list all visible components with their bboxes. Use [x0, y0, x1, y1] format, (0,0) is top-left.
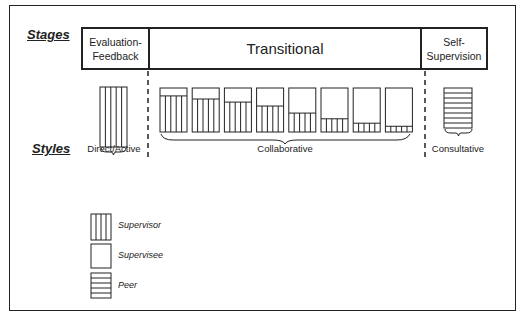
collaborative-bar [353, 88, 380, 132]
consultative-bar [444, 88, 472, 128]
direct-active-bar [100, 87, 127, 147]
legend-swatch-peer [91, 273, 111, 298]
legend-label-supervisee: Supervisee [118, 250, 163, 260]
collaborative-bars [160, 88, 412, 132]
collaborative-bar [321, 88, 348, 132]
stage-evaluation-feedback-line1: Evaluation- [89, 35, 142, 49]
style-label-direct-active: Direct/Active [84, 143, 144, 154]
stage-transitional: Transitional [148, 27, 422, 70]
stages-row-label: Stages [27, 27, 70, 42]
style-label-collaborative: Collaborative [255, 143, 315, 154]
collaborative-bar [289, 88, 316, 132]
collaborative-bar [160, 88, 187, 132]
stage-transitional-label: Transitional [247, 42, 324, 56]
legend-swatch-supervisor [91, 214, 111, 240]
collaborative-bar [224, 88, 251, 132]
styles-row-label: Styles [32, 141, 70, 156]
collaborative-bar [385, 88, 412, 132]
style-label-consultative: Consultative [428, 143, 488, 154]
legend-label-peer: Peer [118, 280, 137, 290]
legend-swatch-supervisee [91, 244, 111, 268]
stage-evaluation-feedback-line2: Feedback [89, 49, 142, 63]
legend-label-supervisor: Supervisor [118, 220, 161, 230]
stage-self-supervision: Self- Supervision [420, 27, 488, 70]
consultative-brace [445, 129, 472, 136]
stage-self-supervision-line2: Supervision [427, 49, 482, 63]
stage-evaluation-feedback: Evaluation- Feedback [81, 27, 150, 70]
collaborative-bar [192, 88, 219, 132]
stage-self-supervision-line1: Self- [427, 35, 482, 49]
collaborative-bar [257, 88, 284, 132]
